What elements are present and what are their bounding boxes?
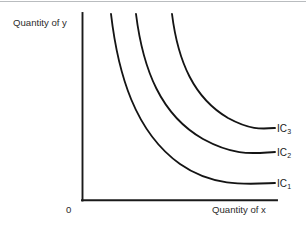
curve-label-ic2: IC2 [277,148,291,158]
curve-label-ic3: IC3 [277,124,291,134]
indifference-curve-figure: Quantity of y Quantity of x 0 IC3 IC2 IC… [0,0,306,227]
curve-label-ic2-subscript: 2 [287,152,291,159]
curve-label-ic1: IC1 [277,179,291,189]
indifference-curve-ic3 [172,14,275,129]
curve-label-ic3-subscript: 3 [287,128,291,135]
curve-label-ic2-base: IC [277,147,287,158]
plot-canvas [0,0,306,227]
origin-label: 0 [66,205,71,215]
curve-label-ic1-base: IC [277,178,287,189]
indifference-curve-ic2 [136,14,275,153]
curve-label-ic1-subscript: 1 [287,183,291,190]
indifference-curve-ic1 [111,14,275,184]
y-axis-label: Quantity of y [13,18,67,28]
curve-label-ic3-base: IC [277,123,287,134]
x-axis-label: Quantity of x [212,205,266,215]
